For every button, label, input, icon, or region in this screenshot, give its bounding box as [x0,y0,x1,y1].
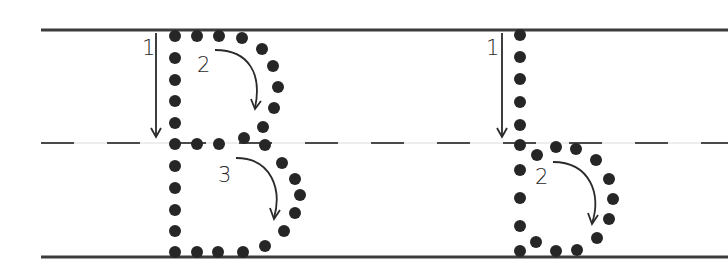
handwriting-worksheet: 1 2 3 1 2 [0,0,728,280]
stroke-number-1: 1 [486,36,499,60]
stroke-number-2: 2 [535,165,548,189]
stroke-number-2: 2 [197,53,210,77]
stroke-number-3: 3 [218,163,231,187]
guide-lines [41,30,728,257]
stroke-guides-lowercase-b [497,33,598,224]
stroke-number-1: 1 [142,36,155,60]
